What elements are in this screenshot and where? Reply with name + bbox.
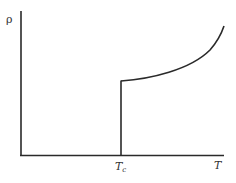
x-axis-label: T (214, 159, 223, 172)
resistivity-curve (121, 26, 224, 81)
y-axis-label: ρ (6, 13, 12, 26)
chart: ρ Tc T (0, 0, 236, 183)
tc-label: Tc (115, 160, 126, 174)
